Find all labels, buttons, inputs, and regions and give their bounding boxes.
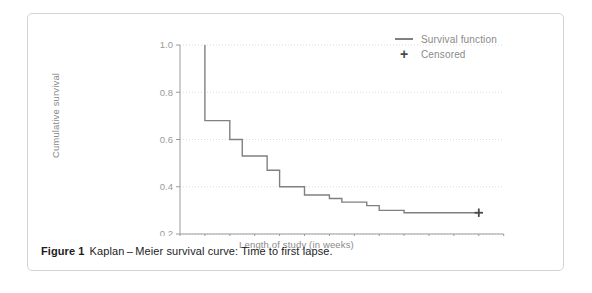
plot-area: 0.20.40.60.81.0012345678910111213 Cumula… <box>28 14 565 236</box>
figure-caption: Figure 1Kaplan – Meier survival curve: T… <box>41 245 551 257</box>
legend-label-survival-function: Survival function <box>415 34 497 45</box>
svg-text:0.6: 0.6 <box>160 134 173 145</box>
legend-item-censored: + Censored <box>393 47 553 61</box>
svg-text:0.4: 0.4 <box>160 181 173 192</box>
figure-caption-label: Figure 1 <box>41 245 85 257</box>
chart-legend: Survival function + Censored <box>393 32 553 62</box>
legend-item-survival-function: Survival function <box>393 32 553 46</box>
figure-caption-text: Kaplan – Meier survival curve: Time to f… <box>85 245 333 257</box>
plus-marker-icon: + <box>393 49 415 59</box>
survival-line-icon <box>393 38 415 40</box>
figure-panel: 0.20.40.60.81.0012345678910111213 Cumula… <box>27 13 564 271</box>
svg-text:0.8: 0.8 <box>160 87 173 98</box>
svg-text:1.0: 1.0 <box>160 39 173 50</box>
legend-label-censored: Censored <box>415 49 466 60</box>
y-axis-title: Cumulative survival <box>50 36 61 196</box>
svg-text:0.2: 0.2 <box>160 228 173 236</box>
